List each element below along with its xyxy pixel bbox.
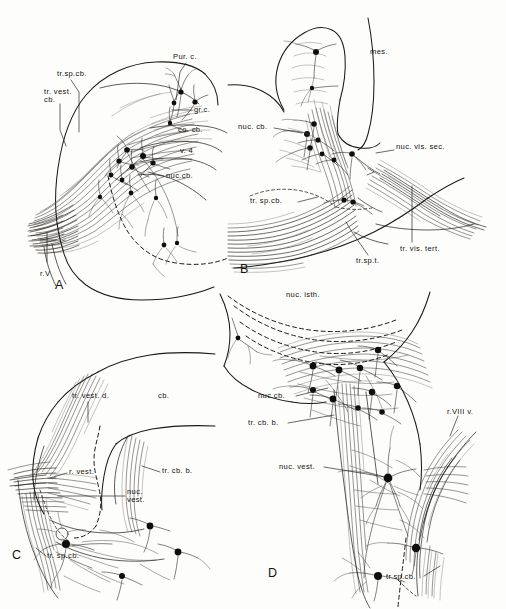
panel-letter-a: A	[55, 278, 64, 292]
label-tr-sp-t: tr.sp.t.	[356, 257, 379, 266]
label-nuc-cb-b: nuc. cb.	[238, 123, 267, 132]
label-co-cb: co. cb.	[178, 126, 203, 135]
label-tr-cb-b-c: tr. cb. b.	[162, 467, 193, 476]
label-pur-c: Pur. c.	[173, 53, 197, 62]
label-tr-sp-cb-b: tr. sp.cb.	[250, 197, 282, 206]
panel-b: mes. nuc. cb. nuc. vis. sec. tr. sp.cb. …	[228, 0, 506, 290]
label-tr-vest-d: tr. vest. d.	[72, 392, 109, 401]
panel-d-drawing	[200, 280, 506, 609]
mes-cells	[284, 41, 338, 106]
label-tr-sp-cb-c: tr. sp.cb.	[47, 552, 79, 561]
label-cb-c: cb.	[158, 392, 169, 401]
panel-d: nuc. isth. nuc.cb. tr. cb. b. nuc. vest.…	[200, 280, 506, 609]
label-nuc-vest-c: nuc.vest.	[127, 488, 145, 505]
label-nuc-cb-d: nuc.cb.	[258, 392, 285, 401]
label-tr-sp-cb-d: tr.sp.cb.	[386, 573, 416, 582]
label-r-v: r.V	[40, 270, 50, 279]
label-nuc-cb: nuc.cb.	[166, 172, 193, 181]
label-r-vest: r. vest.	[69, 468, 94, 477]
panel-c: tr. vest. d. cb. r. vest. tr. cb. b. nuc…	[0, 330, 215, 609]
nuc-cb-cells-b	[273, 119, 348, 175]
panel-b-drawing	[228, 0, 506, 290]
panel-letter-b: B	[240, 262, 249, 276]
label-tr-vest-cb: tr. vest.cb.	[44, 88, 72, 105]
figure-plate: tr. vest.cb. tr.sp.cb. Pur. c. gr.c. co.…	[0, 0, 506, 609]
panel-letter-d: D	[268, 566, 278, 580]
label-nuc-vis-sec: nuc. vis. sec.	[396, 143, 445, 152]
label-tr-cb-b-d: tr. cb. b.	[248, 419, 279, 428]
label-nuc-isth: nuc. isth.	[286, 291, 320, 300]
label-nuc-vest-d: nuc. vest.	[279, 463, 315, 472]
label-v4: v. 4	[180, 147, 193, 156]
panel-a-drawing	[0, 0, 250, 305]
label-tr-sp-cb: tr.sp.cb.	[57, 70, 87, 79]
label-mes: mes.	[370, 48, 388, 57]
label-tr-vis-tert: tr. vis. tert.	[400, 245, 440, 254]
panel-a: tr. vest.cb. tr.sp.cb. Pur. c. gr.c. co.…	[0, 0, 250, 305]
label-r-viii-v: r.VIII v.	[447, 408, 473, 417]
label-gr-c: gr.c.	[194, 106, 210, 115]
panel-letter-c: C	[12, 548, 22, 562]
